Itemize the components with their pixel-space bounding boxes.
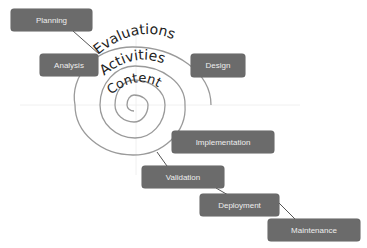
validation-label: Validation — [166, 173, 201, 182]
deployment-label: Deployment — [218, 201, 261, 210]
maintenance-connector — [279, 203, 295, 219]
analysis-label: Analysis — [54, 61, 84, 70]
planning-node[interactable]: Planning — [11, 9, 92, 31]
validation-node[interactable]: Validation — [142, 166, 224, 188]
maintenance-node[interactable]: Maintenance — [268, 219, 360, 241]
implementation-node[interactable]: Implementation — [172, 131, 274, 153]
spiral-diagram: Evaluations Activities Content — [0, 0, 367, 248]
design-label: Design — [206, 61, 231, 70]
analysis-node[interactable]: Analysis — [40, 54, 98, 76]
deployment-node[interactable]: Deployment — [200, 194, 279, 216]
implementation-label: Implementation — [196, 138, 251, 147]
maintenance-label: Maintenance — [291, 226, 337, 235]
design-node[interactable]: Design — [191, 54, 245, 77]
planning-label: Planning — [36, 16, 67, 25]
validation-connector — [157, 152, 167, 166]
